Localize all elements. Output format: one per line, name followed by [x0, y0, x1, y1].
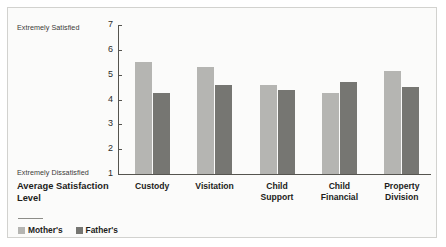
chart-figure: Extremely Satisfied Extremely Dissatisfi…	[7, 7, 437, 238]
bar-mothers	[260, 85, 277, 174]
bar-group	[197, 25, 232, 174]
x-axis-category-label: PropertyDivision	[370, 181, 434, 202]
chart-legend: Mother'sFather's	[18, 225, 118, 235]
bar-mothers	[197, 67, 214, 174]
bar-group	[135, 25, 170, 174]
bar-fathers	[153, 93, 170, 174]
bar-fathers	[340, 82, 357, 174]
y-axis-tick-label: 2	[99, 144, 113, 153]
bar-fathers	[402, 87, 419, 174]
x-axis-category-label: ChildFinancial	[307, 181, 371, 202]
legend-label: Father's	[86, 225, 118, 235]
y-axis-tick-label: 7	[99, 20, 113, 29]
bar-mothers	[135, 62, 152, 174]
bar-group	[322, 25, 357, 174]
y-axis-tick-label: 1	[99, 169, 113, 178]
legend-label: Mother's	[28, 225, 63, 235]
bar-group	[384, 25, 419, 174]
legend-item: Mother's	[18, 225, 63, 235]
x-axis-category-label: Custody	[120, 181, 184, 192]
y-axis-tick-label: 5	[99, 70, 113, 79]
y-axis-tick-label: 4	[99, 95, 113, 104]
x-axis-title: Average Satisfaction Level	[17, 181, 113, 204]
plot-area	[119, 25, 431, 174]
bar-mothers	[322, 93, 339, 174]
legend-swatch	[18, 227, 25, 234]
bar-mothers	[384, 71, 401, 174]
y-axis-tick	[118, 174, 122, 175]
bar-group	[260, 25, 295, 174]
legend-divider	[18, 218, 43, 219]
y-axis-max-annotation: Extremely Satisfied	[17, 23, 79, 32]
x-axis-category-label: ChildSupport	[245, 181, 309, 202]
legend-swatch	[76, 227, 83, 234]
x-axis-baseline	[118, 174, 431, 175]
bar-fathers	[215, 85, 232, 174]
legend-item: Father's	[76, 225, 118, 235]
y-axis-tick-label: 6	[99, 45, 113, 54]
y-axis-min-annotation: Extremely Dissatisfied	[17, 168, 89, 177]
x-axis-category-label: Visitation	[183, 181, 247, 192]
bar-fathers	[278, 90, 295, 174]
y-axis-tick-label: 3	[99, 119, 113, 128]
